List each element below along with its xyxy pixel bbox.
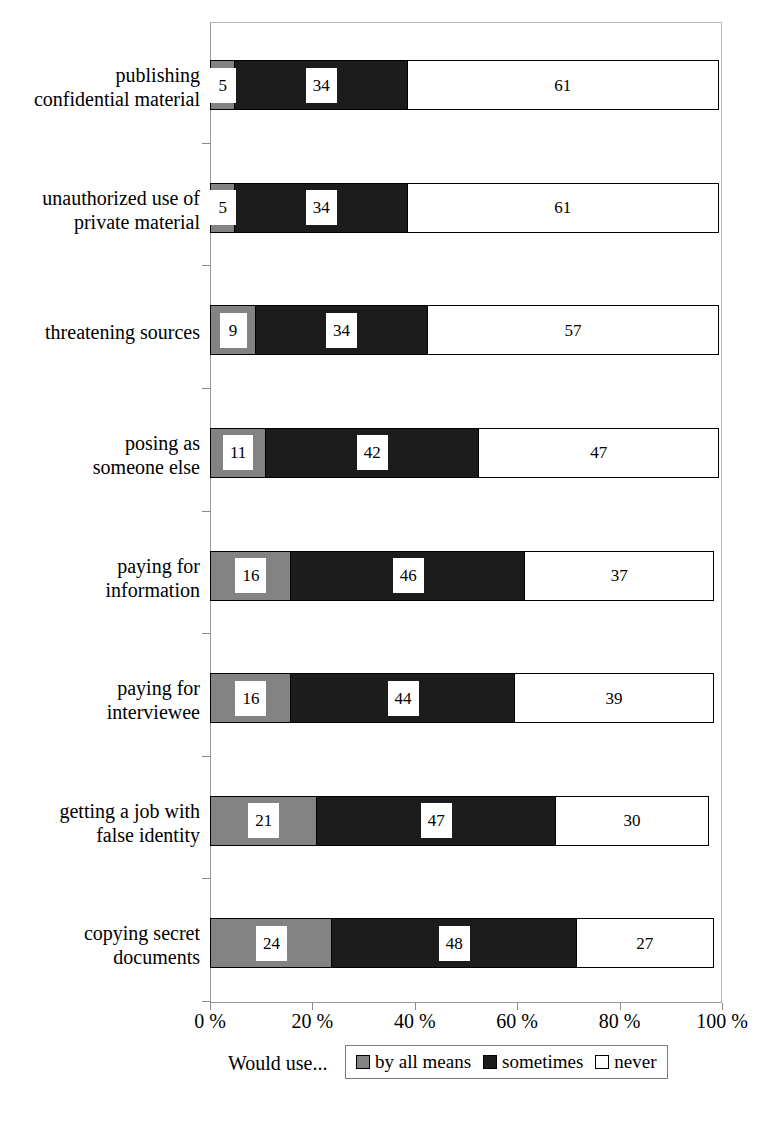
stacked-bar: 164439 (210, 673, 722, 723)
category-label-line: copying secret (14, 921, 200, 945)
bar-value-label: 44 (388, 681, 419, 716)
x-axis-tick-labels: 0 %20 %40 %60 %80 %100 % (0, 1010, 762, 1040)
segment-by-all-means: 16 (210, 673, 292, 723)
category-label-line: getting a job with (14, 799, 200, 823)
x-axis-tick-label: 60 % (496, 1010, 538, 1033)
y-axis-tick (202, 756, 211, 757)
category-label: paying forinformation (14, 553, 200, 603)
bar-value-label: 11 (223, 435, 253, 470)
category-label-line: threatening sources (14, 320, 200, 344)
bar-value-label: 9 (220, 313, 247, 348)
segment-sometimes: 46 (290, 551, 526, 601)
x-axis-tick-label: 80 % (599, 1010, 641, 1033)
category-label: publishingconfidential material (14, 62, 200, 112)
segment-never: 57 (427, 305, 719, 355)
legend-entry-by-all-means: by all means (356, 1051, 471, 1073)
category-label-line: publishing (14, 63, 200, 87)
y-axis-tick (202, 511, 211, 512)
stacked-bar: 214730 (210, 796, 722, 846)
bar-value-label: 48 (439, 926, 470, 961)
x-axis-tick (312, 1003, 313, 1010)
category-label-line: posing as (14, 431, 200, 455)
segment-never: 27 (576, 918, 714, 968)
bar-value-label: 46 (393, 558, 424, 593)
y-axis-tick (202, 633, 211, 634)
legend-entry-sometimes: sometimes (483, 1051, 583, 1073)
category-label-line: documents (14, 945, 200, 969)
segment-sometimes: 48 (331, 918, 577, 968)
segment-sometimes: 34 (234, 60, 408, 110)
chart-row: posing assomeone else114247 (0, 390, 762, 513)
legend-label-by-all-means: by all means (375, 1051, 471, 1073)
bar-value-label: 39 (605, 689, 624, 708)
category-label-line: unauthorized use of (14, 186, 200, 210)
stacked-bar: 244827 (210, 918, 722, 968)
bar-value-label: 27 (635, 934, 654, 953)
bar-value-label: 34 (326, 313, 357, 348)
segment-never: 37 (524, 551, 713, 601)
bar-value-label: 21 (248, 803, 279, 838)
chart-row: threatening sources93457 (0, 267, 762, 390)
segment-never: 30 (555, 796, 709, 846)
segment-by-all-means: 5 (210, 60, 236, 110)
never-swatch (595, 1055, 609, 1069)
category-label-line: confidential material (14, 87, 200, 111)
chart-row: publishingconfidential material53461 (0, 22, 762, 145)
category-label: paying forinterviewee (14, 675, 200, 725)
category-label-line: false identity (14, 823, 200, 847)
stacked-bar: 114247 (210, 428, 722, 478)
x-axis-tick-label: 20 % (292, 1010, 334, 1033)
bar-value-label: 42 (357, 435, 388, 470)
category-label-line: paying for (14, 554, 200, 578)
chart-row: paying forinformation164637 (0, 513, 762, 636)
legend: by all means sometimes never (345, 1045, 668, 1079)
stacked-bar: 93457 (210, 305, 722, 355)
segment-by-all-means: 21 (210, 796, 318, 846)
legend-title: Would use... (228, 1052, 328, 1075)
category-label: copying secretdocuments (14, 920, 200, 970)
y-axis-tick (202, 1001, 211, 1002)
bar-value-label: 34 (306, 68, 337, 103)
category-label: unauthorized use ofprivate material (14, 185, 200, 235)
bar-value-label: 16 (235, 681, 266, 716)
chart-row: copying secretdocuments244827 (0, 880, 762, 1003)
segment-by-all-means: 11 (210, 428, 266, 478)
category-label: posing assomeone else (14, 430, 200, 480)
bar-value-label: 5 (209, 68, 236, 103)
segment-never: 39 (514, 673, 714, 723)
y-axis-tick (202, 265, 211, 266)
y-axis-tick (202, 388, 211, 389)
legend-label-sometimes: sometimes (502, 1051, 583, 1073)
x-axis-tick-label: 100 % (696, 1010, 748, 1033)
bar-value-label: 5 (209, 190, 236, 225)
segment-by-all-means: 24 (210, 918, 333, 968)
y-axis-tick (202, 143, 211, 144)
stacked-bar-chart: publishingconfidential material53461unau… (0, 0, 762, 1126)
segment-sometimes: 34 (234, 183, 408, 233)
category-label-line: someone else (14, 455, 200, 479)
category-label-line: private material (14, 210, 200, 234)
bar-value-label: 61 (553, 76, 572, 95)
bar-value-label: 47 (589, 443, 608, 462)
segment-sometimes: 42 (265, 428, 480, 478)
segment-by-all-means: 5 (210, 183, 236, 233)
segment-sometimes: 47 (316, 796, 557, 846)
chart-row: unauthorized use ofprivate material53461 (0, 145, 762, 268)
x-axis-tick (210, 1003, 211, 1010)
segment-never: 47 (478, 428, 719, 478)
category-label-line: paying for (14, 676, 200, 700)
x-axis-tick-label: 40 % (394, 1010, 436, 1033)
bar-value-label: 61 (553, 198, 572, 217)
legend-label-never: never (614, 1051, 656, 1073)
segment-sometimes: 34 (255, 305, 429, 355)
x-axis-tick (415, 1003, 416, 1010)
stacked-bar: 164637 (210, 551, 722, 601)
chart-row: getting a job withfalse identity214730 (0, 758, 762, 881)
x-axis-tick (722, 1003, 723, 1010)
legend-entry-never: never (595, 1051, 656, 1073)
segment-by-all-means: 16 (210, 551, 292, 601)
y-axis-tick (202, 878, 211, 879)
bar-value-label: 16 (235, 558, 266, 593)
category-label-line: interviewee (14, 700, 200, 724)
by-all-means-swatch (356, 1055, 370, 1069)
